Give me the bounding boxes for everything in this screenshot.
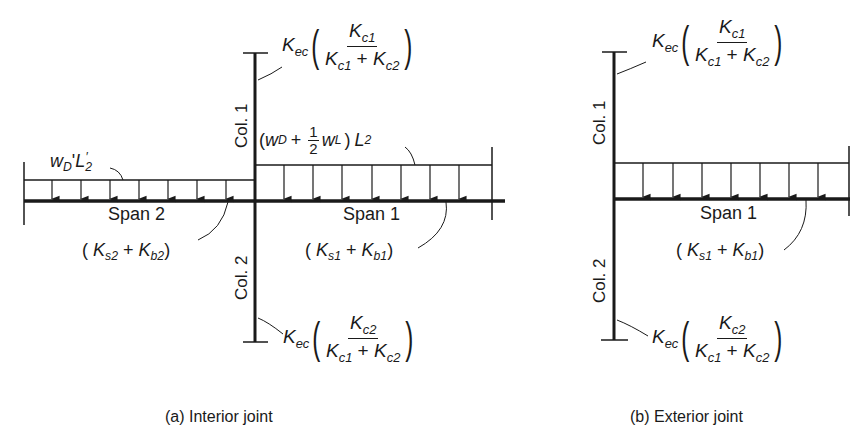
panel-a-caption: (a) Interior joint: [165, 408, 273, 426]
panel-b-caption: (b) Exterior joint: [630, 408, 743, 426]
kec: Kec: [282, 34, 308, 59]
panel-a-lines: [24, 53, 505, 342]
panel-a-col2-label: Col. 2: [232, 256, 252, 300]
panel-b-col1-distribution-formula: Kec ( Kc1 Kc1 + Kc2 ): [652, 16, 786, 68]
panel-b-load-arrows: [643, 163, 818, 197]
panel-a-col2-distribution-formula: Kec ( Kc2 Kc1 + Kc2 ): [283, 312, 417, 364]
panel-b-col2-label: Col. 2: [590, 259, 610, 303]
ratio: Kc1 Kc1 + Kc2: [323, 20, 401, 72]
panel-b-span1-label: Span 1: [700, 203, 757, 224]
panel-b-col1-label: Col. 1: [590, 101, 610, 145]
paren-close: ): [405, 24, 413, 68]
panel-a-span2-label: Span 2: [108, 204, 165, 225]
panel-a-span1-load-label: ( wD + 12 wL ) L2: [259, 124, 371, 157]
panel-b-span1-stiffness: ( Ks1 + Kb1): [676, 240, 764, 263]
panel-a-col1-label: Col. 1: [232, 104, 252, 148]
panel-b-col2-distribution-formula: Kec ( Kc2 Kc1 + Kc2 ): [652, 312, 786, 364]
panel-a-span1-stiffness: ( Ks1 + Kb1): [305, 240, 393, 263]
panel-a-span2-stiffness: ( Ks2 + Kb2): [82, 240, 170, 263]
panel-b-lines: [601, 52, 850, 340]
panel-a-col1-distribution-formula: Kec ( Kc1 Kc1 + Kc2 ): [282, 20, 416, 72]
paren-open: (: [312, 24, 320, 68]
panel-a-span2-load-label: wD'L2′: [50, 150, 88, 174]
panel-a-span1-label: Span 1: [343, 204, 400, 225]
